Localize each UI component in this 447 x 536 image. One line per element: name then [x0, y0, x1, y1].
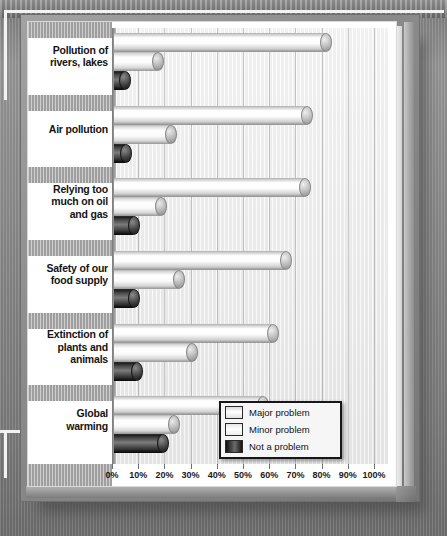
bar-body — [114, 197, 160, 216]
x-axis-tick-label: 100% — [362, 470, 385, 480]
bar-body — [114, 434, 162, 453]
bar-end-cap — [119, 71, 131, 90]
x-axis-tick-label: 60% — [260, 470, 278, 480]
category-label-line: Safety of our — [28, 262, 108, 275]
gridline-70 — [295, 28, 296, 464]
bar-major-problem[interactable] — [114, 251, 290, 268]
x-axis-tick-10 — [138, 464, 139, 469]
x-axis-tick-60 — [269, 464, 270, 469]
category-axis-column: Pollution ofrivers, lakesAir pollutionRe… — [28, 22, 112, 464]
category-label-line: Pollution of — [28, 44, 108, 57]
bar-body — [114, 343, 191, 362]
outer-bracket-left-upper — [4, 10, 7, 100]
x-axis-left-band — [28, 464, 112, 486]
x-axis: 0%10%20%30%40%50%60%70%80%90%100% — [112, 464, 388, 486]
gridline-100 — [374, 28, 375, 464]
category-label: Extinction ofplants andanimals — [28, 328, 108, 366]
bar-minor-problem[interactable] — [114, 197, 165, 214]
chart-legend[interactable]: Major problemMinor problemNot a problem — [219, 401, 342, 459]
frame-bevel-right-inner — [396, 26, 402, 488]
category-label-line: food supply — [28, 274, 108, 287]
bar-not-a-problem[interactable] — [114, 144, 130, 161]
legend-item-none[interactable]: Not a problem — [225, 438, 340, 454]
x-axis-tick-30 — [191, 464, 192, 469]
legend-item-major[interactable]: Major problem — [225, 404, 340, 420]
category-band — [28, 313, 112, 329]
bar-end-cap — [165, 125, 177, 144]
bar-end-cap — [299, 178, 311, 197]
bar-major-problem[interactable] — [114, 324, 277, 341]
x-axis-tick-label: 20% — [155, 470, 173, 480]
category-label-line: and gas — [28, 208, 108, 221]
bar-not-a-problem[interactable] — [114, 216, 138, 233]
category-label: Globalwarming — [28, 407, 108, 432]
legend-swatch-major — [225, 406, 243, 419]
bar-body — [114, 178, 304, 197]
bar-end-cap — [131, 362, 143, 381]
category-label-line: Relying too — [28, 183, 108, 196]
x-axis-tick-50 — [243, 464, 244, 469]
x-axis-tick-label: 90% — [339, 470, 357, 480]
bar-minor-problem[interactable] — [114, 343, 196, 360]
x-axis-tick-0 — [112, 464, 113, 469]
x-axis-tick-100 — [374, 464, 375, 469]
category-band — [28, 167, 112, 183]
bar-end-cap — [152, 52, 164, 71]
bar-not-a-problem[interactable] — [114, 289, 138, 306]
legend-swatch-none — [225, 440, 243, 453]
frame-bevel-corner — [396, 486, 416, 502]
x-axis-tick-40 — [217, 464, 218, 469]
bar-body — [114, 52, 157, 71]
x-axis-tick-90 — [348, 464, 349, 469]
bar-minor-problem[interactable] — [114, 125, 175, 142]
bar-body — [114, 106, 306, 125]
category-band — [28, 240, 112, 256]
bar-minor-problem[interactable] — [114, 415, 178, 432]
category-band — [28, 95, 112, 111]
bar-body — [114, 33, 325, 52]
bar-end-cap — [267, 324, 279, 343]
x-axis-tick-label: 30% — [182, 470, 200, 480]
gridline-80 — [322, 28, 323, 464]
outer-bracket-top — [4, 10, 444, 13]
frame-bevel-bottom — [26, 486, 408, 498]
x-axis-tick-label: 40% — [208, 470, 226, 480]
category-label-line: rivers, lakes — [28, 56, 108, 69]
category-label-line: Extinction of — [28, 328, 108, 341]
bar-not-a-problem[interactable] — [114, 362, 141, 379]
bar-end-cap — [155, 197, 167, 216]
bar-body — [114, 324, 272, 343]
frame-bevel-right-outer — [404, 22, 414, 492]
x-axis-tick-label: 0% — [105, 470, 118, 480]
outer-bracket-left-lower — [4, 430, 7, 478]
legend-swatch-minor — [225, 423, 243, 436]
bar-not-a-problem[interactable] — [114, 71, 129, 88]
bar-body — [114, 125, 170, 144]
category-label-line: Global — [28, 407, 108, 420]
x-axis-tick-label: 10% — [129, 470, 147, 480]
category-label-line: plants and — [28, 341, 108, 354]
x-axis-tick-label: 50% — [234, 470, 252, 480]
gridline-60 — [269, 28, 270, 464]
legend-label: Not a problem — [249, 441, 309, 452]
bar-major-problem[interactable] — [114, 106, 311, 123]
gridline-90 — [348, 28, 349, 464]
category-label-line: animals — [28, 353, 108, 366]
bar-body — [114, 270, 178, 289]
bar-minor-problem[interactable] — [114, 52, 162, 69]
legend-label: Minor problem — [249, 424, 310, 435]
x-axis-tick-label: 70% — [286, 470, 304, 480]
category-band — [28, 22, 112, 38]
bar-body — [114, 251, 285, 270]
bar-major-problem[interactable] — [114, 178, 309, 195]
legend-label: Major problem — [249, 407, 310, 418]
bar-minor-problem[interactable] — [114, 270, 183, 287]
bar-end-cap — [186, 343, 198, 362]
legend-item-minor[interactable]: Minor problem — [225, 421, 340, 437]
category-label-line: Air pollution — [28, 123, 108, 136]
x-axis-tick-20 — [164, 464, 165, 469]
bar-end-cap — [301, 106, 313, 125]
bar-major-problem[interactable] — [114, 33, 330, 50]
bar-not-a-problem[interactable] — [114, 434, 167, 451]
category-band — [28, 385, 112, 401]
